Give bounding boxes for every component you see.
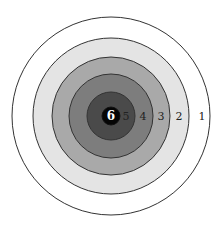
label-ring-1: 1 (199, 110, 206, 123)
label-ring-3: 3 (158, 110, 165, 123)
label-ring-4: 4 (140, 110, 147, 123)
label-ring-6: 6 (107, 109, 115, 123)
label-ring-2: 2 (176, 110, 183, 123)
target-diagram: 1 2 3 4 5 6 (0, 0, 221, 232)
label-ring-5: 5 (123, 110, 130, 123)
